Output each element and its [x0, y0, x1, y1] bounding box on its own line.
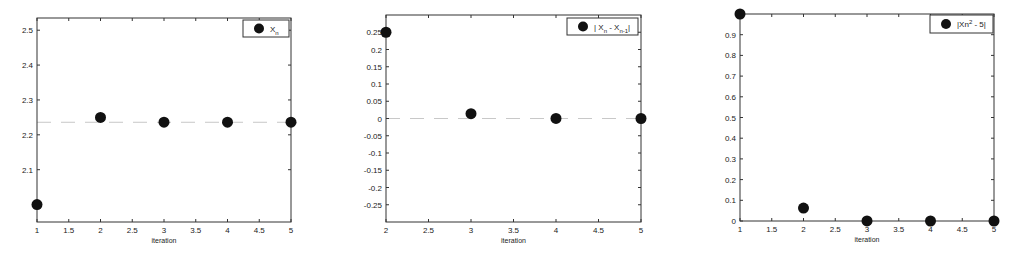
y-tick-label: 0.3 [725, 155, 737, 164]
plot-area [740, 14, 994, 221]
x-tick-label: 5 [289, 226, 294, 235]
data-point [989, 216, 1000, 227]
data-point [636, 113, 647, 124]
y-tick-label: 0.8 [725, 51, 737, 60]
x-axis-label: iteration [152, 237, 177, 244]
data-point [159, 117, 170, 128]
y-tick-label: 2.5 [22, 26, 34, 35]
y-tick-label: 0 [732, 217, 737, 226]
x-axis-label: iteration [501, 237, 526, 244]
y-tick-label: 0.05 [366, 97, 382, 106]
legend: | Xn - Xn-1| [567, 18, 638, 35]
data-point [798, 203, 809, 214]
y-tick-label: 2.4 [22, 61, 34, 70]
x-tick-label: 3.5 [893, 225, 905, 234]
y-tick-label: -0.25 [364, 201, 383, 210]
data-point [466, 108, 477, 119]
y-tick-label: 2.1 [22, 166, 34, 175]
y-tick-label: -0.2 [368, 184, 382, 193]
legend-marker-icon [254, 24, 264, 34]
y-tick-label: 0.4 [725, 134, 737, 143]
x-tick-label: 1.5 [766, 225, 778, 234]
chart-3: 11.522.533.544.5500.10.20.30.40.50.60.70… [725, 9, 1000, 244]
x-tick-label: 2.5 [423, 226, 435, 235]
x-tick-label: 2 [98, 226, 103, 235]
data-point [222, 117, 233, 128]
legend-marker-icon [941, 19, 951, 29]
x-tick-label: 1 [35, 226, 40, 235]
y-tick-label: 0.5 [725, 114, 737, 123]
y-tick-label: -0.15 [364, 166, 383, 175]
x-tick-label: 2 [384, 226, 389, 235]
data-point [95, 112, 106, 123]
legend-marker-icon [578, 22, 588, 32]
x-tick-label: 1 [738, 225, 743, 234]
data-point [925, 216, 936, 227]
x-tick-label: 2.5 [127, 226, 139, 235]
legend: Xn [243, 20, 289, 37]
figure-canvas: 11.522.533.544.552.12.22.32.42.5iteratio… [0, 0, 1022, 260]
x-tick-label: 5 [639, 226, 644, 235]
x-tick-label: 3.5 [190, 226, 202, 235]
y-tick-label: 0.7 [725, 72, 737, 81]
x-axis-label: iteration [855, 236, 880, 243]
legend: |Xn2 - 5| [930, 15, 993, 33]
x-tick-label: 2.5 [830, 225, 842, 234]
y-tick-label: 2.2 [22, 131, 34, 140]
x-tick-label: 4.5 [957, 225, 969, 234]
y-tick-label: 0.2 [371, 46, 383, 55]
y-tick-label: 0 [378, 115, 383, 124]
y-tick-label: 0.2 [725, 176, 737, 185]
data-point [381, 27, 392, 38]
chart-1: 11.522.533.544.552.12.22.32.42.5iteratio… [22, 18, 297, 244]
x-tick-label: 3 [469, 226, 474, 235]
chart-2: 22.533.544.55-0.25-0.2-0.15-0.1-0.0500.0… [364, 15, 647, 244]
x-tick-label: 4 [225, 226, 230, 235]
x-tick-label: 3 [162, 226, 167, 235]
legend-label: |Xn2 - 5| [957, 19, 986, 29]
y-tick-label: 0.6 [725, 93, 737, 102]
data-point [735, 9, 746, 20]
y-tick-label: 0.15 [366, 63, 382, 72]
data-point [286, 117, 297, 128]
x-tick-label: 4.5 [254, 226, 266, 235]
y-tick-label: 2.3 [22, 96, 34, 105]
y-tick-label: 0.9 [725, 31, 737, 40]
y-tick-label: 0.25 [366, 28, 382, 37]
data-point [32, 199, 43, 210]
y-tick-label: 0.1 [371, 80, 383, 89]
y-tick-label: 0.1 [725, 196, 737, 205]
x-tick-label: 2 [801, 225, 806, 234]
data-point [551, 113, 562, 124]
x-tick-label: 4 [554, 226, 559, 235]
x-tick-label: 1.5 [63, 226, 75, 235]
x-tick-label: 3.5 [508, 226, 520, 235]
y-tick-label: -0.1 [368, 149, 382, 158]
data-point [862, 215, 873, 226]
y-tick-label: -0.05 [364, 132, 383, 141]
x-tick-label: 4.5 [593, 226, 605, 235]
